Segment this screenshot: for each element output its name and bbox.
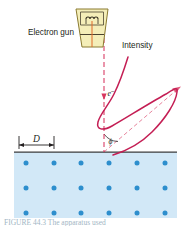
spacing-arrowhead-left	[19, 143, 24, 147]
electron-gun	[76, 9, 108, 47]
atom-spacing-dimension: D	[19, 134, 54, 149]
crystal-atom	[163, 161, 168, 166]
figure-container: D ϕ e−	[0, 0, 189, 226]
crystal-atom	[24, 186, 29, 191]
scatter-angle-indicator: ϕ	[104, 134, 118, 146]
electron-diffraction-diagram: D ϕ e−	[0, 0, 189, 226]
crystal-atom	[135, 211, 140, 216]
spacing-label: D	[32, 134, 40, 144]
crystal-atom	[107, 186, 112, 191]
electron-gun-label: Electron gun	[28, 28, 74, 37]
crystal-atom	[24, 161, 29, 166]
crystal-atom	[52, 186, 57, 191]
figure-caption: FIGURE 44.3 The apparatus used	[4, 218, 106, 226]
crystal-atom	[79, 186, 84, 191]
incident-beam-arrowhead	[101, 94, 106, 101]
crystal-atom	[163, 211, 168, 216]
intensity-label: Intensity	[122, 41, 153, 50]
scattered-ray-dashed-line	[104, 88, 179, 152]
crystal-atom	[79, 211, 84, 216]
spacing-arrowhead-right	[49, 143, 54, 147]
angle-label: ϕ	[109, 137, 113, 146]
crystal-atom	[79, 161, 84, 166]
crystal-body	[14, 152, 177, 218]
crystal-atom	[107, 161, 112, 166]
crystal-atom	[52, 211, 57, 216]
crystal-atom	[163, 186, 168, 191]
crystal-atom	[52, 161, 57, 166]
crystal-atom	[24, 211, 29, 216]
crystal-slab	[14, 152, 177, 218]
scattered-ray	[104, 86, 181, 152]
crystal-atom	[107, 211, 112, 216]
crystal-atom	[135, 161, 140, 166]
crystal-atom	[135, 186, 140, 191]
